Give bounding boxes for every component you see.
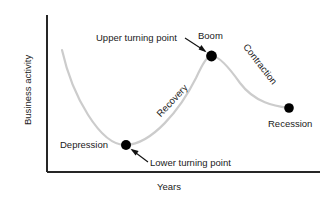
marker-depression	[121, 140, 131, 150]
marker-recession	[284, 103, 294, 113]
annotation-recession: Recession	[268, 119, 312, 129]
annotation-depression: Depression	[60, 140, 108, 150]
y-axis-label: Business activity	[23, 55, 33, 125]
annotation-boom: Boom	[198, 31, 223, 41]
annotation-lower-turning-point: Lower turning point	[150, 158, 231, 168]
upper-turning-point-arrow-head	[199, 45, 207, 52]
marker-boom	[206, 51, 217, 62]
annotation-upper-turning-point: Upper turning point	[96, 33, 177, 43]
business-cycle-diagram: Business activity Years Upper turning po…	[0, 0, 333, 202]
x-axis-label: Years	[157, 182, 181, 192]
